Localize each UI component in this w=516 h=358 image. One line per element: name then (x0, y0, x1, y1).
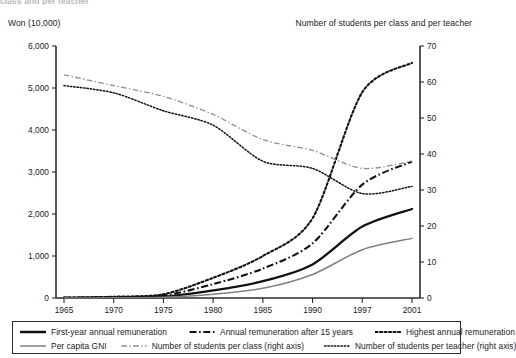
x-axis-tick-label: 1965 (55, 305, 74, 315)
right-axis-tick-label: 0 (427, 293, 432, 303)
legend-line-swatch (20, 327, 46, 337)
legend-line-swatch (189, 327, 215, 337)
legend-label: Highest annual remuneration (406, 327, 515, 337)
legend-label: First-year annual remuneration (51, 327, 167, 337)
right-axis-tick-label: 50 (427, 113, 437, 123)
right-axis-tick-label: 30 (427, 185, 437, 195)
legend-label: Per capita GNI (51, 341, 107, 351)
left-axis-tick-label: 3,000 (28, 167, 49, 177)
chart-svg: 01,0002,0003,0004,0005,0006,000 01020304… (0, 0, 475, 315)
series-line (64, 63, 412, 298)
legend-line-swatch (20, 341, 46, 351)
legend-label: Number of students per class (right axis… (152, 341, 304, 351)
right-axis: 010203040506070 (420, 41, 437, 303)
x-axis-tick-label: 1975 (154, 305, 173, 315)
legend-line-swatch (121, 341, 147, 351)
legend-entry: Annual remuneration after 15 years (189, 327, 353, 337)
legend-line-swatch (324, 341, 350, 351)
left-axis-tick-label: 0 (44, 293, 49, 303)
left-axis: 01,0002,0003,0004,0005,0006,000 (28, 41, 56, 303)
legend-entry: Highest annual remuneration (375, 327, 515, 337)
chart-plot-area: 01,0002,0003,0004,0005,0006,000 01020304… (0, 0, 475, 315)
x-axis-tick-label: 1990 (303, 305, 322, 315)
legend-label: Number of students per teacher (right ax… (355, 341, 516, 351)
left-axis-tick-label: 2,000 (28, 209, 49, 219)
left-axis-tick-label: 5,000 (28, 83, 49, 93)
left-axis-tick-label: 1,000 (28, 251, 49, 261)
series-line (64, 75, 412, 169)
x-axis-tick-label: 1997 (353, 305, 372, 315)
right-axis-tick-label: 70 (427, 41, 437, 51)
legend-label: Annual remuneration after 15 years (220, 327, 353, 337)
series-line (64, 162, 412, 298)
series-line (64, 209, 412, 298)
left-axis-tick-label: 4,000 (28, 125, 49, 135)
legend-row: First-year annual remunerationAnnual rem… (20, 326, 456, 338)
legend-entry: Number of students per class (right axis… (121, 341, 304, 351)
x-axis-tick-label: 2001 (403, 305, 422, 315)
series-group (64, 63, 412, 298)
x-axis: 19651970197519801985199019972001 (55, 298, 422, 315)
legend-rows: First-year annual remunerationAnnual rem… (13, 322, 460, 353)
legend-entry: First-year annual remuneration (20, 327, 167, 337)
right-axis-tick-label: 40 (427, 149, 437, 159)
legend-line-swatch (375, 327, 401, 337)
series-line (64, 86, 412, 194)
right-axis-tick-label: 10 (427, 257, 437, 267)
right-axis-tick-label: 20 (427, 221, 437, 231)
right-axis-tick-label: 60 (427, 77, 437, 87)
legend-entry: Per capita GNI (20, 341, 107, 351)
x-axis-tick-label: 1980 (204, 305, 223, 315)
x-axis-tick-label: 1985 (254, 305, 273, 315)
left-axis-tick-label: 6,000 (28, 41, 49, 51)
x-axis-tick-label: 1970 (104, 305, 123, 315)
legend-row: Per capita GNINumber of students per cla… (20, 340, 456, 352)
legend-entry: Number of students per teacher (right ax… (324, 341, 516, 351)
chart-legend: First-year annual remunerationAnnual rem… (12, 321, 461, 354)
